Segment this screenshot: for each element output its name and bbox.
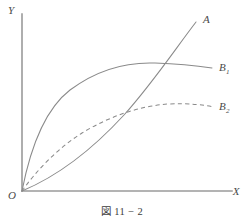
curve-a-path	[22, 22, 196, 191]
plot-area: Y X O A B 1 B 2	[0, 0, 244, 224]
curve-b2-label-subscript: 2	[226, 107, 230, 115]
curve-b2-path	[22, 104, 214, 191]
x-axis-label: X	[232, 185, 241, 197]
origin-label: O	[8, 189, 16, 201]
curve-b2-label-group: B 2	[219, 100, 230, 115]
figure-caption: 図 11 − 2	[0, 203, 244, 218]
figure-container: Y X O A B 1 B 2 図 11 − 2	[0, 0, 244, 224]
curve-b1-path	[22, 63, 212, 191]
curve-b1-label-group: B 1	[219, 61, 230, 76]
y-axis-label: Y	[8, 4, 16, 16]
curve-b2-label: B	[219, 100, 226, 112]
curve-b1-label: B	[219, 61, 226, 73]
curve-b1-label-subscript: 1	[226, 68, 230, 76]
curve-a-label: A	[202, 13, 210, 25]
